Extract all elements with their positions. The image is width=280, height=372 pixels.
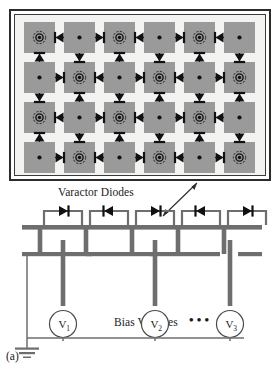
patch-element xyxy=(24,22,55,53)
voltage-source-subscript: 3 xyxy=(233,324,237,333)
stub xyxy=(84,225,89,254)
patch-element xyxy=(64,142,95,173)
patch-array-graphic xyxy=(15,15,266,176)
figure-root: Varactor Diodes Bias Voltages (a) V1V2V3… xyxy=(0,0,280,372)
patch-element xyxy=(184,102,215,133)
stub xyxy=(222,225,227,254)
stub xyxy=(130,225,135,254)
circuit-varactor-diode xyxy=(90,205,128,225)
bias-circuit-schematic: V1V2V3 • • • xyxy=(0,178,280,358)
lower-rail-segment xyxy=(86,252,156,256)
ellipsis: • • • xyxy=(189,312,210,327)
stub xyxy=(38,225,43,254)
patch-element xyxy=(24,142,55,173)
patch-element xyxy=(224,22,255,53)
patch-element xyxy=(104,142,135,173)
circuit-varactor-diode xyxy=(136,205,174,225)
circuit-varactor-diode xyxy=(228,205,266,225)
patch-element xyxy=(144,102,175,133)
circuit-diode-group xyxy=(44,205,266,225)
patch-element xyxy=(184,142,215,173)
voltage-source-subscript: 2 xyxy=(158,324,162,333)
patch-element xyxy=(144,62,175,93)
patch-array-inner xyxy=(14,14,266,176)
patch-element xyxy=(104,62,135,93)
patch-element xyxy=(184,62,215,93)
patch-element xyxy=(104,102,135,133)
voltage-source-subscript: 1 xyxy=(66,324,70,333)
patch-element xyxy=(24,62,55,93)
patch-element xyxy=(224,102,255,133)
circuit-varactor-diode xyxy=(182,205,220,225)
patch-element xyxy=(24,102,55,133)
lower-rail-segment xyxy=(150,252,220,256)
patch-element xyxy=(64,22,95,53)
patch-element xyxy=(184,22,215,53)
patch-element xyxy=(224,142,255,173)
patch-array-panel xyxy=(9,9,271,181)
patch-element xyxy=(64,102,95,133)
patch-element xyxy=(104,22,135,53)
patch-element xyxy=(64,62,95,93)
lower-rail-segment xyxy=(22,252,92,256)
patch-element xyxy=(144,142,175,173)
patch-element xyxy=(224,62,255,93)
ground-icon xyxy=(15,338,39,358)
lower-rail-segment xyxy=(238,252,262,256)
patch-element xyxy=(144,22,175,53)
stub xyxy=(176,225,181,254)
circuit-varactor-diode xyxy=(44,205,82,225)
